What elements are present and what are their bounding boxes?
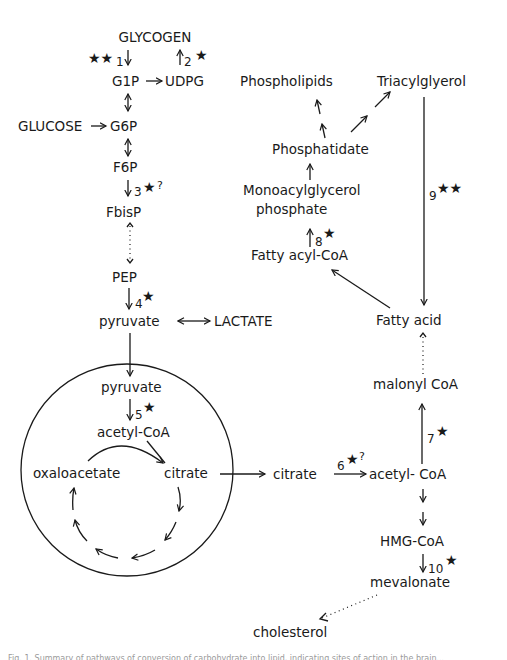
- node-phosphatidate: Phosphatidate: [272, 141, 369, 157]
- tca-arrow-1: [178, 487, 180, 511]
- step-4-marker: ★: [142, 288, 155, 304]
- tca-arrow-5: [75, 520, 87, 541]
- diagram-canvas: GLYCOGEN ★★ 1 2 ★ G1P UDPG GLUCOSE G6P F…: [0, 0, 507, 660]
- node-oxaloacetate: oxaloacetate: [33, 465, 120, 481]
- step-2-marker: ★: [195, 47, 208, 63]
- node-glycogen: GLYCOGEN: [119, 29, 192, 45]
- step-7-label: 7: [427, 432, 435, 446]
- node-acetylcoa-cytosol: acetyl- CoA: [369, 466, 447, 482]
- step-6-question: ?: [359, 450, 365, 463]
- step-6-label: 6: [337, 459, 345, 473]
- line-acetylcoa-to-citrate: [147, 441, 165, 463]
- step-7-marker: ★: [436, 423, 449, 439]
- arc-oxaloacetate-to-citrate: [88, 446, 163, 463]
- figure-caption: Fig. 1. Summary of pathways of conversio…: [8, 652, 503, 660]
- step-6-marker: ★: [346, 451, 359, 467]
- step-8-label: 8: [315, 235, 323, 249]
- arrow-fattyacid-to-fattyacylcoa: [332, 270, 390, 308]
- node-acetylcoa-mito: acetyl-CoA: [97, 424, 171, 440]
- node-citrate-cytosol: citrate: [273, 466, 317, 482]
- node-triacylglycerol: Triacylglyerol: [376, 73, 466, 89]
- step-10-marker: ★: [445, 552, 458, 568]
- arrowhead-up: [420, 333, 426, 337]
- arrow-phosphatidate-to-phospholipids-a: [322, 124, 325, 138]
- step-8-marker: ★: [323, 225, 336, 241]
- node-pep: PEP: [112, 269, 137, 285]
- node-monoacylglycerol-line1: Monoacylglycerol: [243, 182, 360, 198]
- tca-arrow-4: [96, 549, 118, 558]
- node-pyruvate-mito: pyruvate: [101, 379, 162, 395]
- node-fbisp: FbisP: [106, 204, 141, 220]
- arrow-phosphatidate-to-phospholipids-b: [317, 100, 320, 114]
- node-udpg: UDPG: [165, 73, 204, 89]
- node-glucose: GLUCOSE: [18, 118, 82, 134]
- node-phospholipids: Phospholipids: [240, 73, 333, 89]
- step-3-label: 3: [134, 185, 142, 199]
- arrowhead-down: [127, 259, 133, 263]
- step-5-label: 5: [135, 408, 143, 422]
- node-f6p: F6P: [113, 159, 138, 175]
- node-monoacylglycerol-line2: phosphate: [256, 201, 327, 217]
- step-9-label: 9: [429, 189, 437, 203]
- arrow-phosphatidate-to-triacylglycerol-b: [375, 92, 390, 107]
- arrowhead-cholesterol: [320, 613, 328, 621]
- tca-arrow-6: [73, 488, 74, 510]
- node-lactate: LACTATE: [214, 313, 272, 329]
- step-1-marker: ★★: [88, 50, 113, 66]
- node-g1p: G1P: [112, 73, 139, 89]
- step-3-marker: ★: [143, 179, 156, 195]
- step-2-label: 2: [184, 55, 192, 69]
- node-citrate-mito: citrate: [164, 465, 208, 481]
- step-9-marker: ★★: [437, 180, 462, 196]
- node-cholesterol: cholesterol: [253, 624, 327, 640]
- node-pyruvate-cytosol: pyruvate: [99, 313, 160, 329]
- arrow-phosphatidate-to-triacylglycerol-a: [351, 116, 367, 132]
- node-g6p: G6P: [110, 118, 137, 134]
- node-hmgcoa: HMG-CoA: [380, 533, 445, 549]
- step-3-question: ?: [157, 179, 163, 192]
- metabolic-pathway-diagram: GLYCOGEN ★★ 1 2 ★ G1P UDPG GLUCOSE G6P F…: [0, 0, 507, 660]
- dotted-mevalonate-cholesterol: [322, 595, 377, 618]
- node-fattyacid: Fatty acid: [376, 312, 442, 328]
- step-5-marker: ★: [143, 399, 156, 415]
- step-1-label: 1: [116, 55, 124, 69]
- tca-arrow-2: [165, 522, 176, 540]
- node-fattyacylcoa: Fatty acyl-CoA: [251, 247, 349, 263]
- node-malonylcoa: malonyl CoA: [373, 376, 459, 392]
- tca-arrow-3: [132, 550, 155, 558]
- node-mevalonate: mevalonate: [370, 574, 450, 590]
